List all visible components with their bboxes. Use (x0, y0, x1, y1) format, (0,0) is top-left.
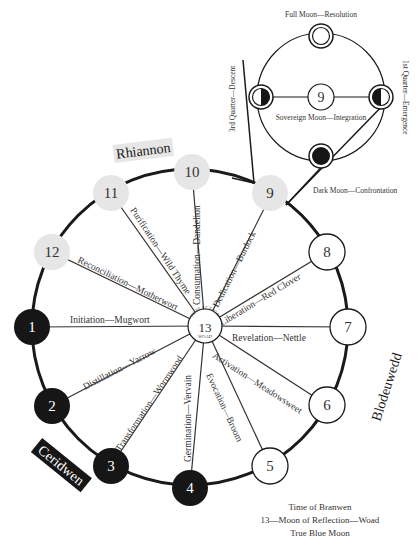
third-quarter-label: 3rd Quarter—Descent (228, 65, 237, 132)
sovereign-moon-node: 9 (308, 84, 334, 110)
goddess-label: Rhiannon (115, 140, 171, 162)
goddess-label: Ceridwen (35, 442, 87, 488)
full-moon-node (309, 24, 333, 48)
spoke-label-5: Evocation—Broom (204, 372, 245, 444)
spoke-label-1: Initiation—Mugwort (70, 315, 150, 325)
node-number: 7 (344, 319, 352, 335)
sovereign-moon-label: Sovereign Moon—Integration (276, 113, 367, 122)
node-number: 12 (45, 244, 60, 260)
moon-wheel-diagram: Initiation—Mugwort Distillation—Yarrow T… (0, 0, 419, 550)
footer-line-2: 13—Moon of Reflection—Woad (261, 515, 380, 525)
third-quarter-node (249, 85, 273, 109)
node-number: 4 (186, 480, 194, 496)
node-number: 5 (266, 458, 274, 474)
goddess-ceridwen: Ceridwen (31, 438, 92, 492)
first-quarter-node (369, 85, 393, 109)
center-number: 13 (199, 320, 212, 335)
node-11: 11 (93, 175, 129, 211)
node-10: 10 (174, 154, 210, 190)
goddess-blodeuwedd: Blodeuwedd (369, 351, 405, 423)
node-number: 3 (107, 458, 115, 474)
footer-caption: Time of Branwen 13—Moon of Reflection—Wo… (261, 502, 380, 538)
node-8: 8 (309, 234, 345, 270)
node-number: 9 (266, 185, 274, 201)
spoke-label-7: Revelation—Nettle (232, 333, 306, 343)
node-4: 4 (172, 470, 208, 506)
node-2: 2 (34, 388, 70, 424)
goddess-label: Blodeuwedd (369, 351, 405, 423)
node-number: 2 (48, 398, 56, 414)
node-3: 3 (93, 448, 129, 484)
dark-moon-node (309, 144, 333, 168)
footer-line-3: True Blue Moon (290, 528, 350, 538)
spoke-label-4: Germination—Vervain (183, 375, 193, 462)
spoke-labels: Initiation—Mugwort Distillation—Yarrow T… (70, 205, 306, 462)
node-number: 1 (28, 319, 36, 335)
node-5: 5 (252, 448, 288, 484)
goddess-rhiannon: Rhiannon (112, 138, 174, 163)
node-number: 11 (104, 185, 118, 201)
node-number: 6 (323, 397, 331, 413)
center-node-13: REFLECTION 13 WOAD (188, 305, 222, 343)
node-7: 7 (330, 309, 366, 345)
node-1: 1 (14, 309, 50, 345)
node-6: 6 (309, 387, 345, 423)
footer-line-1: Time of Branwen (288, 502, 352, 512)
dark-moon-label: Dark Moon—Confrontation (313, 186, 398, 195)
moon-phase-inset: 9 Full Moon—Resolution Sovereign Moon—In… (228, 10, 410, 195)
spoke-label-2: Distillation—Yarrow (81, 346, 157, 392)
spoke-label-9: Dedication—Burdock (211, 229, 258, 309)
inset-center-number: 9 (318, 90, 325, 105)
full-moon-label: Full Moon—Resolution (285, 10, 357, 19)
node-12: 12 (34, 234, 70, 270)
first-quarter-label: 1st Quarter—Emergence (401, 60, 410, 135)
node-9: 9 (252, 175, 288, 211)
node-number: 10 (185, 164, 200, 180)
node-number: 8 (323, 244, 331, 260)
center-bottom-label: WOAD (198, 334, 213, 339)
